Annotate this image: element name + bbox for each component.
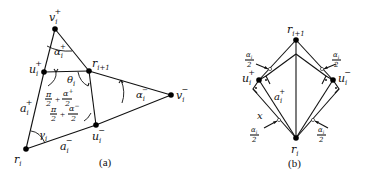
- label-r-i: ri: [14, 153, 22, 168]
- label-gamma: γi: [39, 129, 47, 143]
- right-angle-marker: [335, 87, 337, 89]
- label-half-alpha-top-right: αi 2: [332, 51, 341, 69]
- svg-text:+: +: [55, 94, 60, 104]
- label-theta: θi: [67, 74, 75, 88]
- label-r-i: ri: [291, 143, 299, 158]
- svg-text:+: +: [60, 109, 65, 119]
- edge-uplus-ri: [259, 80, 296, 138]
- svg-text:αi: αi: [318, 126, 325, 135]
- label-half-alpha-top-left: αi 2: [245, 51, 254, 69]
- arrow-icon: [88, 83, 89, 86]
- vertex-u-plus: [256, 77, 262, 83]
- figure-a: vi+ ui+ ri+1 vi− ui− ri αi+ θi αi− γi π …: [14, 7, 188, 169]
- svg-text:αi: αi: [246, 51, 253, 60]
- edge-uminus-ri: [296, 80, 333, 138]
- vertex-r-next: [293, 37, 299, 43]
- svg-text:αi: αi: [251, 126, 258, 135]
- svg-text:2: 2: [70, 114, 76, 123]
- label-alpha-minus: αi−: [136, 86, 148, 103]
- svg-text:2: 2: [318, 136, 324, 144]
- label-r-next: ri+1: [287, 23, 305, 38]
- label-edge-a-plus: ai+: [274, 88, 285, 105]
- figure-canvas: vi+ ui+ ri+1 vi− ui− ri αi+ θi αi− γi π …: [0, 0, 366, 180]
- label-u-plus: ui+: [29, 59, 42, 78]
- svg-text:α−: α−: [69, 102, 79, 113]
- svg-text:2: 2: [251, 136, 257, 144]
- label-u-minus: ui−: [338, 68, 351, 87]
- angle-arc-uplus: [48, 72, 56, 86]
- svg-text:π: π: [50, 105, 57, 114]
- svg-text:2: 2: [50, 114, 56, 123]
- right-angle-marker: [325, 79, 327, 81]
- label-edge-x: x: [257, 110, 263, 121]
- edge-rnext-uplus: [259, 40, 296, 80]
- vertex-v-minus: [168, 92, 174, 98]
- label-r-next: ri+1: [92, 57, 110, 72]
- angle-arc-theta: [78, 72, 88, 86]
- edge-rnext-uminus: [296, 40, 333, 80]
- arrow-icon: [256, 64, 268, 69]
- angle-marker: [311, 118, 314, 121]
- angle-marker: [320, 67, 323, 70]
- label-edge-a-plus: ai+: [20, 98, 33, 117]
- label-v-plus: vi+: [49, 7, 61, 26]
- vertex-v-plus: [52, 26, 58, 32]
- arrow-icon: [264, 121, 277, 128]
- svg-text:αi: αi: [333, 51, 340, 60]
- angle-arc-uminus: [84, 113, 91, 121]
- edge-uplus-rnext: [44, 71, 89, 72]
- label-half-alpha-bottom-left: αi 2: [250, 126, 259, 144]
- label-u-plus: ui+: [242, 68, 255, 87]
- figure-b: ri+1 ui+ ui− ri ai+ x αi 2 αi 2 αi 2 αi …: [242, 23, 351, 170]
- svg-text:2: 2: [333, 61, 339, 69]
- angle-arc-alpha-minus: [121, 80, 124, 103]
- angle-marker: [277, 118, 280, 121]
- svg-text:α+: α+: [63, 87, 73, 98]
- vertex-r-next: [86, 68, 92, 74]
- edge-rnext-uminus: [89, 71, 96, 125]
- angle-marker: [268, 67, 271, 70]
- edge-rnext-vminus: [89, 71, 171, 95]
- caption-a: (a): [99, 156, 112, 169]
- right-angle-marker: [265, 79, 267, 81]
- vertex-u-minus: [330, 77, 336, 83]
- svg-text:2: 2: [246, 61, 252, 69]
- label-edge-a-minus: ai−: [60, 136, 73, 155]
- label-half-alpha-bottom-right: αi 2: [317, 126, 326, 144]
- label-u-minus: ui−: [92, 126, 105, 145]
- vertex-r-i: [23, 146, 29, 152]
- label-v-minus: vi−: [176, 85, 188, 104]
- caption-b: (b): [288, 157, 301, 170]
- inner-edge-left-top: [266, 54, 296, 76]
- label-alpha-plus: αi+: [54, 43, 66, 60]
- vertex-r-i: [293, 135, 299, 141]
- inner-edge-right-top: [296, 54, 326, 76]
- right-angle-marker: [255, 87, 257, 89]
- edge-vminus-uminus: [96, 95, 171, 125]
- svg-text:π: π: [45, 90, 52, 99]
- vertex-u-plus: [41, 69, 47, 75]
